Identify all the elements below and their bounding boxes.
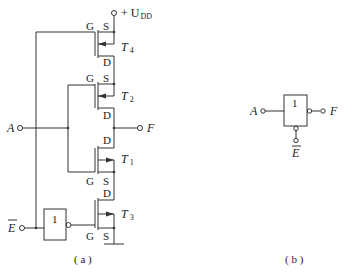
t2-label: T2: [121, 89, 134, 104]
t4-label: T4: [121, 40, 134, 55]
t2-source-label: S: [103, 72, 109, 84]
t1-source-label: S: [103, 175, 109, 187]
output-f-label: F: [146, 121, 155, 135]
not-gate-label: 1: [52, 213, 58, 225]
vdd-terminal: [112, 11, 117, 16]
t3-label: T3: [121, 207, 134, 222]
input-ebar-label: E: [7, 221, 16, 235]
t1-drain-label: D: [103, 134, 111, 146]
t3-source-label: S: [103, 230, 109, 242]
t4-drain-label: D: [103, 56, 111, 68]
t4-gate-label: G: [86, 20, 94, 32]
b-ebar-label: E: [291, 146, 300, 160]
caption-a: ( a ): [74, 253, 92, 266]
t4-source-label: S: [103, 20, 109, 32]
caption-b: ( b ): [285, 253, 304, 266]
input-ebar-terminal: [20, 226, 25, 231]
supply-label: + UDD: [121, 6, 152, 21]
t1-gate-label: G: [86, 175, 94, 187]
tristate-inverter-diagram: + UDD G S D T4 G S D T2 D G S T1 D G S T…: [0, 0, 344, 280]
t2-drain-label: D: [103, 109, 111, 121]
input-a-label: A: [6, 121, 15, 135]
b-input-a-label: A: [249, 104, 258, 118]
not-gate-bubble: [66, 223, 71, 228]
b-output-f-label: F: [329, 104, 338, 118]
input-a-terminal: [18, 126, 23, 131]
t3-drain-label: D: [103, 187, 111, 199]
t2-gate-label: G: [86, 72, 94, 84]
b-gate-label: 1: [292, 97, 298, 109]
t3-gate-label: G: [86, 230, 94, 242]
t1-label: T1: [121, 152, 134, 167]
output-f-terminal: [138, 126, 143, 131]
